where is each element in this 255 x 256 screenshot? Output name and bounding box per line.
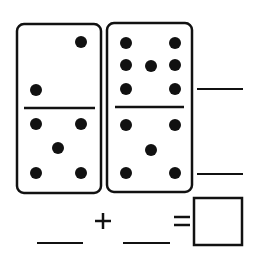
pip-dot [52,142,64,154]
pip-dot [169,37,181,49]
equals-sign [174,217,190,225]
pip-dot [120,37,132,49]
pip-dot [75,118,87,130]
domino-1 [17,24,101,193]
domino-2 [107,23,192,192]
pip-dot [30,167,42,179]
pip-dot [120,119,132,131]
pip-dot [30,118,42,130]
pip-dot [169,167,181,179]
plus-sign [95,213,111,229]
pip-dot [120,59,132,71]
pip-dot [120,167,132,179]
domino-addition-worksheet [0,0,255,256]
pip-dot [75,36,87,48]
pip-dot [145,144,157,156]
pip-dot [120,83,132,95]
pip-dot [169,119,181,131]
pip-dot [30,84,42,96]
pip-dot [145,60,157,72]
answer-box[interactable] [194,198,242,245]
pip-dot [169,59,181,71]
pip-dot [169,83,181,95]
pip-dot [75,167,87,179]
